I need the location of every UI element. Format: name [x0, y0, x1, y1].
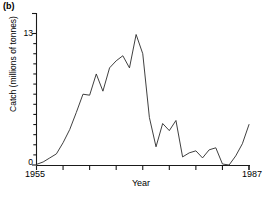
figure-panel: (b) Catch (millions of tonnes) Year 13 0…	[0, 0, 276, 198]
axis-lines	[37, 13, 251, 166]
catch-series-line	[37, 35, 250, 165]
x-axis-ticks	[37, 166, 250, 171]
y-axis-ticks	[32, 14, 37, 166]
line-chart-plot	[0, 0, 276, 198]
